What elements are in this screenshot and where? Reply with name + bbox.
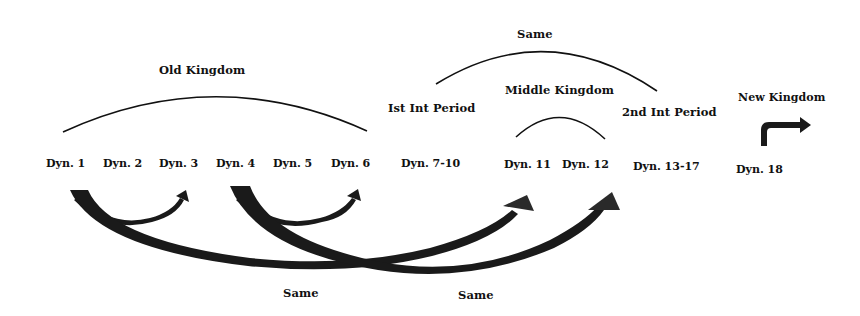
dynasty-13-17: Dyn. 13-17 [633,160,700,173]
dynasty-12: Dyn. 12 [562,158,609,171]
dynasty-11: Dyn. 11 [504,158,551,171]
dynasty-6: Dyn. 6 [331,157,370,170]
dynasty-3: Dyn. 3 [159,157,198,170]
label-second-int-period: 2nd Int Period [622,105,717,119]
middle-kingdom-arc [516,117,605,139]
arrowhead-dyn12 [588,192,620,210]
arrow-dyn1-to-dyn11 [70,190,518,269]
dynasty-18: Dyn. 18 [736,163,783,176]
label-same-top: Same [517,27,553,41]
dynasty-2: Dyn. 2 [103,157,142,170]
label-first-int-period: Ist Int Period [388,101,475,115]
new-kingdom-bent-arrow [761,117,811,146]
dynasty-1: Dyn. 1 [46,157,85,170]
arrowhead-dyn11 [503,195,534,211]
label-old-kingdom: Old Kingdom [159,63,245,77]
label-same-bottom-left: Same [283,286,319,300]
label-middle-kingdom: Middle Kingdom [505,83,614,97]
label-same-bottom-right: Same [458,288,494,302]
dynasty-5: Dyn. 5 [273,157,312,170]
old-kingdom-arc [63,97,367,132]
dynasty-4: Dyn. 4 [216,157,255,170]
label-new-kingdom: New Kingdom [738,91,826,104]
dynasty-7-10: Dyn. 7-10 [401,157,460,170]
